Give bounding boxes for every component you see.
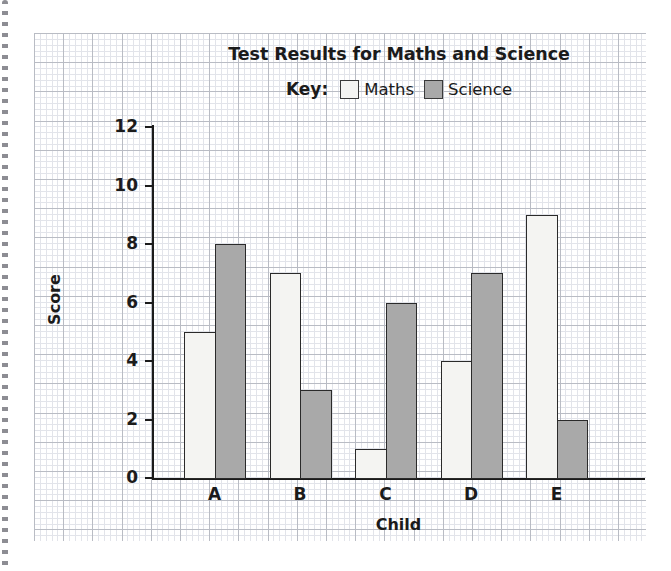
y-axis-tick-12 bbox=[145, 126, 154, 128]
y-axis-tick-label-8: 8 bbox=[98, 233, 138, 253]
bar-maths-e bbox=[526, 215, 558, 479]
y-axis-tick-10 bbox=[145, 185, 154, 187]
y-axis-tick-8 bbox=[145, 243, 154, 245]
legend-swatch-maths bbox=[340, 80, 359, 99]
legend-item-maths: Maths bbox=[340, 80, 414, 99]
x-axis-tick-label-d: D bbox=[441, 484, 501, 504]
bar-science-d bbox=[471, 273, 503, 479]
x-axis-tick-label-a: A bbox=[185, 484, 245, 504]
chart-legend: Key: Maths Science bbox=[153, 79, 645, 99]
legend-label-maths: Maths bbox=[364, 80, 414, 99]
y-axis-tick-2 bbox=[145, 419, 154, 421]
y-axis-tick-label-4: 4 bbox=[98, 350, 138, 370]
legend-item-science: Science bbox=[424, 80, 512, 99]
bar-maths-d bbox=[441, 361, 473, 479]
y-axis-tick-4 bbox=[145, 360, 154, 362]
x-axis-tick-label-c: C bbox=[356, 484, 416, 504]
x-axis-tick-label-e: E bbox=[527, 484, 587, 504]
bar-maths-b bbox=[270, 273, 302, 479]
bar-science-c bbox=[386, 303, 418, 480]
bar-science-a bbox=[215, 244, 247, 479]
bar-chart: Test Results for Maths and Science Key: … bbox=[0, 0, 671, 571]
chart-title: Test Results for Maths and Science bbox=[153, 44, 645, 64]
bar-science-b bbox=[300, 390, 332, 479]
y-axis-tick-6 bbox=[145, 302, 154, 304]
x-axis-title: Child bbox=[152, 515, 645, 534]
x-axis-tick-label-b: B bbox=[270, 484, 330, 504]
bar-science-e bbox=[557, 420, 589, 480]
legend-swatch-science bbox=[424, 80, 443, 99]
bar-maths-a bbox=[184, 332, 216, 479]
y-axis-title: Score bbox=[45, 240, 64, 360]
bar-maths-c bbox=[355, 449, 387, 479]
y-axis-tick-label-2: 2 bbox=[98, 409, 138, 429]
y-axis-tick-label-6: 6 bbox=[98, 292, 138, 312]
y-axis-tick-label-12: 12 bbox=[98, 116, 138, 136]
y-axis-tick-label-0: 0 bbox=[98, 467, 138, 487]
legend-key-label: Key: bbox=[286, 79, 328, 99]
y-axis-tick-label-10: 10 bbox=[98, 175, 138, 195]
legend-label-science: Science bbox=[448, 80, 512, 99]
y-axis-tick-0 bbox=[145, 477, 154, 479]
